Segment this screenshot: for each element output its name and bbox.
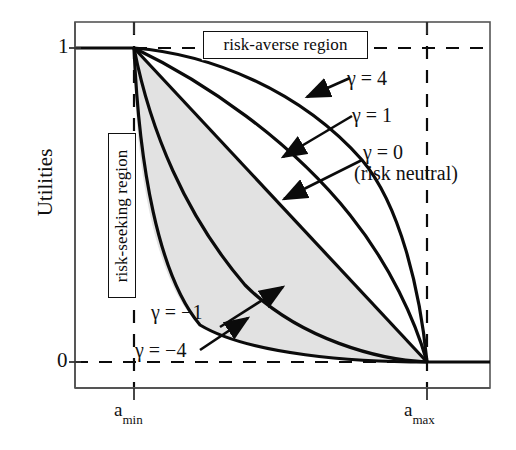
amax-subscript: max (412, 412, 434, 427)
gamma-0-label: γ = 0 (363, 142, 403, 162)
gamma-4-label: γ = 4 (347, 68, 387, 88)
figure-canvas (0, 0, 516, 450)
amin-subscript: min (122, 412, 142, 427)
risk-seeking-region-label: risk-seeking region (112, 149, 132, 282)
y-axis-tick-label-0: 0 (57, 350, 68, 371)
utility-risk-attitude-figure: 1 0 Utilities amin amax risk-averse regi… (0, 0, 516, 450)
gamma-1-label: γ = 1 (352, 105, 392, 125)
y-axis-tick-label-1: 1 (58, 36, 69, 57)
gamma-minus-4-label: γ = −4 (135, 340, 186, 360)
y-axis-title: Utilities (35, 129, 56, 237)
x-axis-tick-label-amin: amin (114, 400, 143, 423)
gamma-minus-1-label: γ = −1 (151, 302, 202, 322)
risk-seeking-region-box: risk-seeking region (108, 133, 136, 298)
x-axis-tick-label-amax: amax (404, 400, 435, 423)
risk-averse-region-box: risk-averse region (203, 31, 368, 59)
risk-averse-region-label: risk-averse region (223, 35, 347, 55)
risk-neutral-label: (risk neutral) (354, 163, 458, 183)
